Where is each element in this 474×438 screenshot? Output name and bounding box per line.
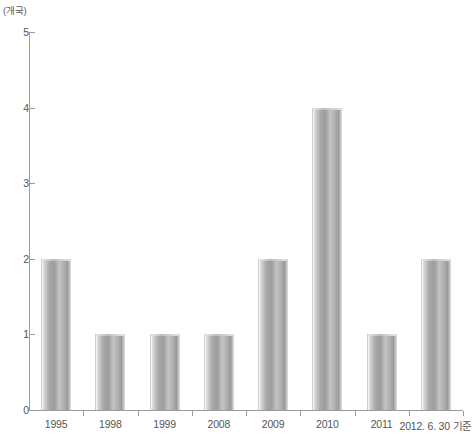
x-axis-tick	[355, 411, 356, 416]
x-axis-label: 2010	[316, 418, 339, 430]
bar	[312, 108, 342, 410]
y-axis-tick	[29, 259, 35, 260]
x-axis-tick	[138, 411, 139, 416]
x-axis-label: 2009	[262, 418, 285, 430]
bar	[150, 334, 180, 410]
y-axis-tick	[29, 183, 35, 184]
x-axis-tick	[192, 411, 193, 416]
y-axis-tick	[29, 32, 35, 33]
x-axis-label: 2008	[208, 418, 231, 430]
y-axis-tick-label: 5	[7, 26, 29, 38]
bar	[367, 334, 397, 410]
x-axis-tick	[83, 411, 84, 416]
x-axis-tick	[246, 411, 247, 416]
x-axis-label: 1999	[153, 418, 176, 430]
y-axis-tick-label: 2	[7, 253, 29, 265]
y-axis-tick-label: 3	[7, 177, 29, 189]
bar	[421, 259, 451, 410]
bar	[258, 259, 288, 410]
y-axis-tick-label: 4	[7, 102, 29, 114]
x-axis-tick	[409, 411, 410, 416]
bar-chart: (개국) 012345 1995199819992008200920102011…	[0, 0, 474, 438]
bar	[41, 259, 71, 410]
x-axis-tick	[300, 411, 301, 416]
x-axis-label: 2012. 6. 30 기준	[400, 418, 473, 433]
x-axis-label: 1995	[45, 418, 68, 430]
y-axis-unit-label: (개국)	[3, 3, 27, 17]
y-axis-line	[29, 32, 30, 411]
y-axis-tick-label: 0	[7, 404, 29, 416]
y-axis-tick-label: 1	[7, 328, 29, 340]
y-axis-tick	[29, 334, 35, 335]
y-axis-tick	[29, 108, 35, 109]
x-axis-tick	[463, 411, 464, 416]
bar	[95, 334, 125, 410]
bar	[204, 334, 234, 410]
x-axis-label: 1998	[99, 418, 122, 430]
x-axis-label: 2011	[371, 418, 393, 430]
